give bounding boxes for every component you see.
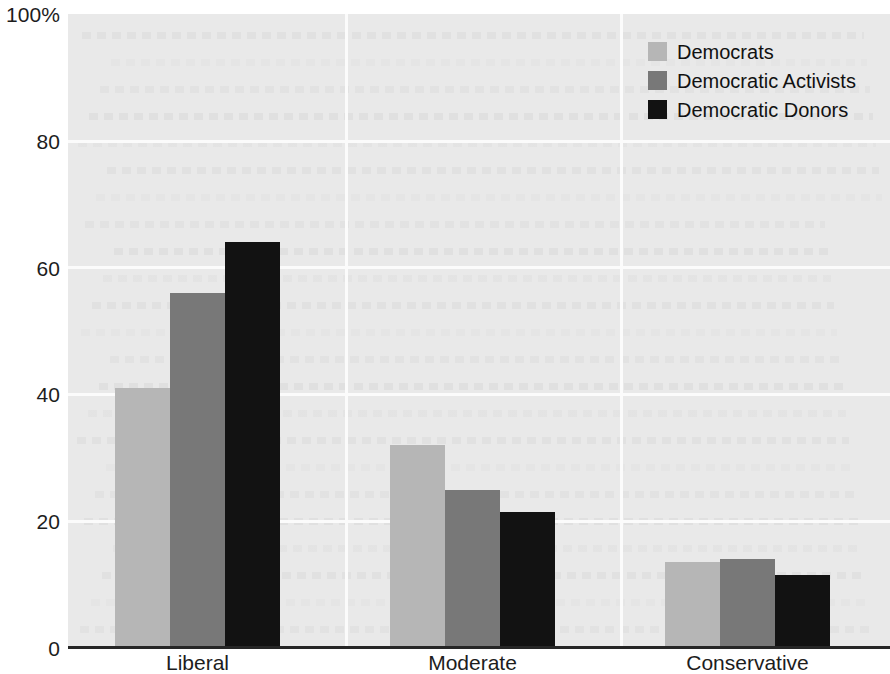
- legend-label-democratic-donors: Democratic Donors: [677, 100, 848, 120]
- y-axis-tick-20: 20: [2, 511, 68, 532]
- legend-item-democrats[interactable]: Democrats: [648, 38, 856, 65]
- bar-liberal-democratic-activists: [170, 293, 225, 648]
- legend-item-democratic-donors[interactable]: Democratic Donors: [648, 96, 856, 123]
- y-axis-tick-80: 80: [2, 131, 68, 152]
- legend-swatch-icon-democratic-activists: [648, 71, 667, 90]
- bar-conservative-democratic-donors: [775, 575, 830, 648]
- bar-moderate-democrats: [390, 445, 445, 648]
- y-axis-tick-0: 0: [2, 638, 68, 659]
- legend-label-democratic-activists: Democratic Activists: [677, 71, 856, 91]
- legend-label-democrats: Democrats: [677, 42, 774, 62]
- bar-chart: 100%806040200 LiberalModerateConservativ…: [0, 0, 890, 674]
- x-axis-label-moderate: Moderate: [363, 652, 583, 673]
- legend-swatch-icon-democratic-donors: [648, 100, 667, 119]
- y-axis-tick-60: 60: [2, 258, 68, 279]
- x-axis-baseline: [68, 646, 890, 649]
- y-axis-tick-100: 100%: [2, 4, 68, 25]
- x-axis-label-conservative: Conservative: [638, 652, 858, 673]
- bar-conservative-democratic-activists: [720, 559, 775, 648]
- chart-legend: Democrats Democratic Activists Democrati…: [648, 38, 856, 125]
- bar-conservative-democrats: [665, 562, 720, 648]
- bar-moderate-democratic-activists: [445, 490, 500, 649]
- legend-swatch-icon-democrats: [648, 42, 667, 61]
- y-axis-tick-40: 40: [2, 384, 68, 405]
- bar-liberal-democrats: [115, 388, 170, 648]
- y-axis: 100%806040200: [0, 0, 68, 674]
- x-axis-label-liberal: Liberal: [88, 652, 308, 673]
- bar-moderate-democratic-donors: [500, 512, 555, 648]
- bar-liberal-democratic-donors: [225, 242, 280, 648]
- legend-item-democratic-activists[interactable]: Democratic Activists: [648, 67, 856, 94]
